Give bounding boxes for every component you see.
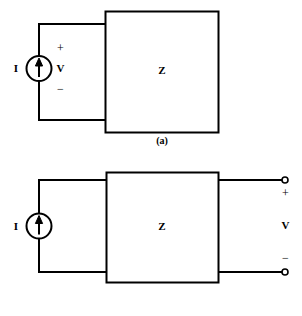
current-source-label-a: I (11, 63, 21, 74)
impedance-label-b: Z (152, 221, 172, 232)
voltage-minus-label-b: − (280, 252, 291, 264)
current-source-label-b: I (11, 221, 21, 232)
voltage-plus-label-a: + (55, 42, 66, 54)
circuit-figure: I + V − Z (a) I Z + V − (b) (0, 0, 302, 316)
voltage-label-a: V (55, 63, 66, 74)
voltage-minus-label-a: − (55, 83, 66, 95)
voltage-plus-label-b: + (280, 187, 291, 199)
voltage-label-b: V (280, 220, 291, 231)
panel-caption-a: (a) (147, 136, 177, 146)
panel-a: I + V − Z (a) (0, 0, 302, 158)
panel-b: I Z + V − (b) (0, 158, 302, 316)
impedance-label-a: Z (152, 65, 172, 76)
